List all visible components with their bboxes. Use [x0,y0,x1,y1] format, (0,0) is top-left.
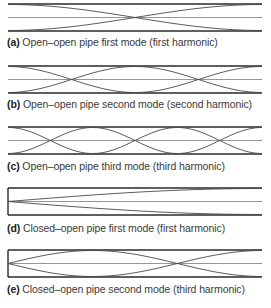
pipe-diagram-d [0,187,271,218]
caption-d: (d) Closed–open pipe first mode (first h… [7,222,225,234]
pipe-diagram-a [0,3,271,34]
caption-letter: (b) [7,98,20,110]
caption-b: (b) Open–open pipe second mode (second h… [7,98,252,110]
caption-c: (c) Open–open pipe third mode (third har… [7,160,225,172]
caption-a: (a) Open–open pipe first mode (first har… [7,36,218,48]
pipe-diagram-e [0,249,271,280]
caption-text: Open–open pipe first mode (first harmoni… [20,36,218,48]
caption-text: Open–open pipe second mode (second harmo… [20,98,252,110]
pipe-diagram-b [0,65,271,96]
caption-letter: (d) [7,222,20,234]
panel-a: (a) Open–open pipe first mode (first har… [0,3,271,52]
caption-e: (e) Closed–open pipe second mode (third … [7,283,245,295]
panel-c: (c) Open–open pipe third mode (third har… [0,126,271,176]
caption-letter: (c) [7,160,20,172]
panel-d: (d) Closed–open pipe first mode (first h… [0,187,271,238]
pipe-diagram-c [0,126,271,157]
caption-text: Closed–open pipe second mode (third harm… [20,283,245,295]
wave-envelope-upper [8,189,262,202]
panel-e: (e) Closed–open pipe second mode (third … [0,249,271,299]
caption-text: Closed–open pipe first mode (first harmo… [20,222,225,234]
panel-b: (b) Open–open pipe second mode (second h… [0,65,271,114]
caption-letter: (a) [7,36,20,48]
caption-text: Open–open pipe third mode (third harmoni… [20,160,225,172]
wave-envelope-lower [8,202,262,215]
caption-letter: (e) [7,283,20,295]
